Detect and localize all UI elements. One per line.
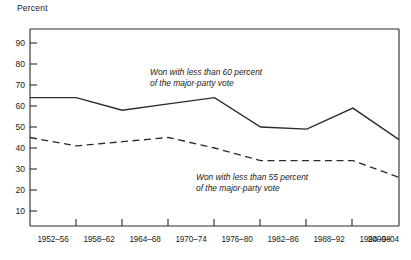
y-tick-label: 90 <box>16 38 26 48</box>
annotation-solid: Won with less than 60 percent of the maj… <box>150 67 263 88</box>
y-tick-label: 70 <box>16 80 26 90</box>
x-tick-label: 1964–68 <box>129 235 161 244</box>
x-tick-label: 1988–92 <box>313 235 345 244</box>
y-tick-label: 80 <box>16 59 26 69</box>
annotation-solid-line1: Won with less than 60 percent <box>150 67 263 77</box>
x-tick-marks <box>76 219 352 226</box>
percent-line-chart: Percent 90 80 70 60 50 40 30 20 <box>0 0 411 260</box>
annotation-dashed-line1: Won with less than 55 percent <box>196 172 309 182</box>
x-tick-labels: 1952–56 1958–62 1964–68 1970–74 1976–80 … <box>37 235 399 244</box>
y-tick-marks <box>30 43 37 211</box>
x-tick-label: 2000–04 <box>368 235 400 244</box>
x-tick-label: 1952–56 <box>37 235 69 244</box>
y-tick-label: 10 <box>16 206 26 216</box>
y-tick-label: 40 <box>16 143 26 153</box>
y-tick-label: 60 <box>16 101 26 111</box>
y-tick-label: 20 <box>16 185 26 195</box>
annotation-solid-line2: of the major-party vote <box>150 78 234 88</box>
x-tick-label: 1958–62 <box>83 235 115 244</box>
annotation-dashed: Won with less than 55 percent of the maj… <box>196 172 309 193</box>
y-tick-labels: 90 80 70 60 50 40 30 20 10 <box>16 38 26 216</box>
x-tick-label: 1982–86 <box>267 235 299 244</box>
chart-plot-area: 90 80 70 60 50 40 30 20 10 1952–56 1958–… <box>0 0 411 260</box>
annotation-dashed-line2: of the major-party vote <box>196 183 280 193</box>
x-tick-label: 1970–74 <box>175 235 207 244</box>
x-tick-label: 1976–80 <box>221 235 253 244</box>
y-tick-label: 30 <box>16 164 26 174</box>
y-tick-label: 50 <box>16 122 26 132</box>
series-line-under-60-percent <box>30 98 399 140</box>
